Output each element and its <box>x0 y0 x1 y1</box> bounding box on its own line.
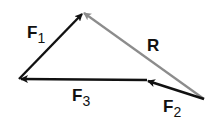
vector-diagram <box>0 0 214 131</box>
vector-f2-arrow <box>148 81 204 99</box>
label-f3: F3 <box>72 87 90 108</box>
label-r: R <box>147 37 159 54</box>
label-f1: F1 <box>27 24 45 45</box>
label-f2: F2 <box>163 98 181 119</box>
vector-r-arrow <box>84 13 204 99</box>
vector-f3-arrow <box>21 79 147 80</box>
